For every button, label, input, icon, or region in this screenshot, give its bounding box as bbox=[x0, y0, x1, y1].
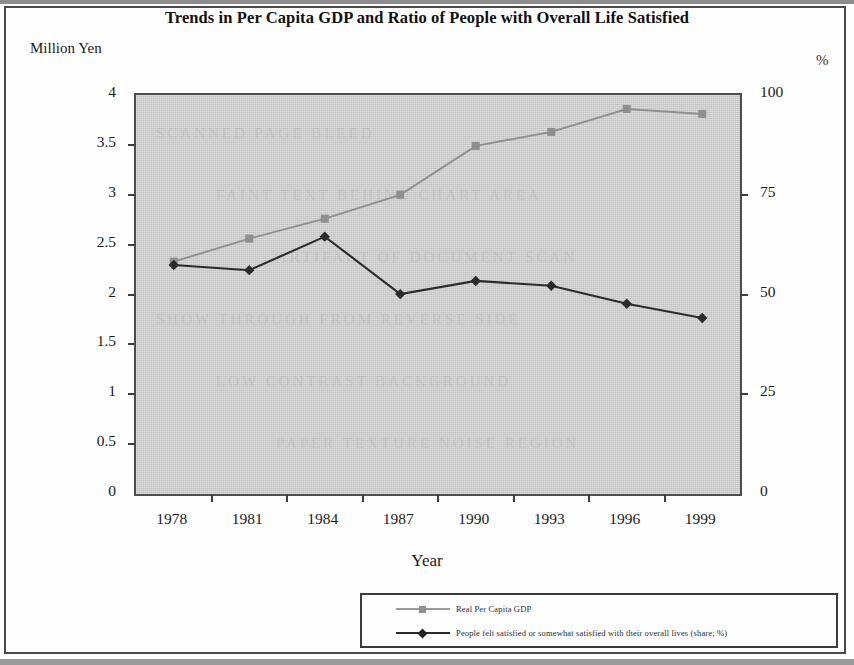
y-tick-left bbox=[128, 144, 135, 146]
legend-item-gdp: Real Per Capita GDP bbox=[396, 603, 531, 615]
chart-title: Trends in Per Capita GDP and Ratio of Pe… bbox=[0, 8, 854, 28]
y-tick-right bbox=[741, 194, 748, 196]
chart-page: Trends in Per Capita GDP and Ratio of Pe… bbox=[0, 0, 854, 665]
y-axis-label-left: 4 bbox=[46, 83, 116, 101]
x-tick bbox=[513, 495, 515, 502]
legend-marker-diamond-icon bbox=[396, 627, 450, 639]
legend-marker-square-icon bbox=[396, 603, 450, 615]
y-axis-label-right: 25 bbox=[760, 382, 820, 400]
y-tick-left bbox=[128, 343, 135, 345]
y-axis-label-left: 1 bbox=[46, 382, 116, 400]
x-axis-label: 1999 bbox=[665, 510, 735, 528]
y-tick-left bbox=[128, 443, 135, 445]
x-axis-label: 1981 bbox=[212, 510, 282, 528]
y-axis-unit-left: Million Yen bbox=[30, 40, 102, 57]
plot-area: SCANNED PAGE BLEEDFAINT TEXT BEHIND CHAR… bbox=[134, 93, 742, 496]
legend-label-gdp: Real Per Capita GDP bbox=[456, 604, 531, 614]
chart-legend: Real Per Capita GDP People felt satisfie… bbox=[360, 593, 838, 648]
page-bottom-edge bbox=[0, 659, 854, 665]
y-axis-label-left: 3 bbox=[46, 183, 116, 201]
x-tick bbox=[211, 495, 213, 502]
y-tick-left bbox=[128, 294, 135, 296]
y-axis-label-left: 2.5 bbox=[46, 233, 116, 251]
y-axis-label-left: 0.5 bbox=[46, 432, 116, 450]
legend-label-satisfaction: People felt satisfied or somewhat satisf… bbox=[456, 628, 727, 638]
y-axis-label-right: 50 bbox=[760, 283, 820, 301]
x-tick bbox=[437, 495, 439, 502]
legend-item-satisfaction: People felt satisfied or somewhat satisf… bbox=[396, 627, 727, 639]
series-lines bbox=[136, 95, 740, 494]
y-axis-label-left: 3.5 bbox=[46, 133, 116, 151]
page-top-edge bbox=[0, 0, 854, 4]
x-tick bbox=[588, 495, 590, 502]
y-axis-label-left: 1.5 bbox=[46, 332, 116, 350]
y-axis-unit-right: % bbox=[816, 52, 829, 69]
y-tick-left bbox=[128, 393, 135, 395]
x-axis-label: 1993 bbox=[514, 510, 584, 528]
x-tick bbox=[286, 495, 288, 502]
y-axis-label-left: 2 bbox=[46, 283, 116, 301]
y-axis-label-right: 0 bbox=[760, 482, 820, 500]
y-tick-right bbox=[741, 393, 748, 395]
y-axis-label-right: 100 bbox=[760, 83, 820, 101]
y-axis-label-left: 0 bbox=[46, 482, 116, 500]
y-tick-right bbox=[741, 294, 748, 296]
y-tick-left bbox=[128, 244, 135, 246]
x-axis-label: 1984 bbox=[288, 510, 358, 528]
x-axis-title: Year bbox=[0, 551, 854, 571]
x-axis-label: 1990 bbox=[439, 510, 509, 528]
x-axis-label: 1978 bbox=[137, 510, 207, 528]
x-tick bbox=[362, 495, 364, 502]
x-tick bbox=[664, 495, 666, 502]
y-tick-left bbox=[128, 194, 135, 196]
x-axis-label: 1987 bbox=[363, 510, 433, 528]
y-axis-label-right: 75 bbox=[760, 183, 820, 201]
x-axis-label: 1996 bbox=[590, 510, 660, 528]
